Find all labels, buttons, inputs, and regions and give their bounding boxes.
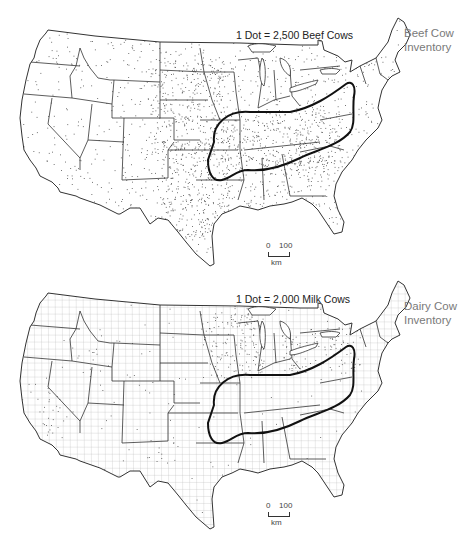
- dot-legend: 1 Dot = 2,000 Milk Cows: [236, 293, 350, 305]
- map-title-line2: Inventory: [404, 313, 457, 327]
- beef-cow-map-panel: 1 Dot = 2,500 Beef Cows Beef Cow Invento…: [0, 0, 471, 271]
- scale-bar-line: [268, 252, 290, 257]
- dairy-cow-map-panel: 1 Dot = 2,000 Milk Cows Dairy Cow Invent…: [0, 271, 471, 542]
- map-title-line1: Beef Cow: [404, 26, 454, 40]
- region-loop-outline: [208, 346, 355, 444]
- map-title: Beef Cow Inventory: [404, 26, 454, 54]
- scale-bar: 0 100 km: [263, 501, 303, 537]
- scale-start-label: 0: [266, 501, 270, 510]
- scale-unit-label: km: [271, 518, 282, 527]
- state-borders: [24, 42, 388, 200]
- region-loop-outline: [208, 83, 355, 181]
- scale-unit-label: km: [271, 258, 282, 267]
- scale-start-label: 0: [266, 241, 270, 250]
- map-title: Dairy Cow Inventory: [404, 299, 457, 327]
- scale-end-label: 100: [279, 501, 292, 510]
- dairy-cow-map: [0, 271, 471, 542]
- scale-bar-line: [268, 512, 290, 517]
- map-title-line2: Inventory: [404, 40, 454, 54]
- dot-legend: 1 Dot = 2,500 Beef Cows: [236, 29, 353, 41]
- scale-end-label: 100: [279, 241, 292, 250]
- map-title-line1: Dairy Cow: [404, 299, 457, 313]
- county-lines: [10, 273, 420, 533]
